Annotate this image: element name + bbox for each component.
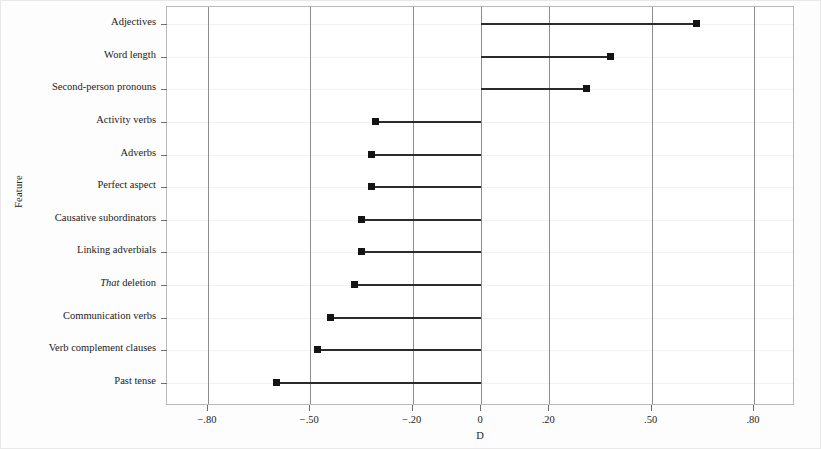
y-axis-tick [161,252,167,253]
vertical-gridline [549,7,550,404]
vertical-gridline [652,7,653,404]
x-axis-tick-label: .80 [746,414,759,425]
chart-row: Adjectives [167,24,793,25]
x-axis-tick [412,405,413,411]
effect-size-line [375,121,481,123]
y-axis-title: Feature [13,152,24,232]
x-axis-tick-label: .20 [542,414,555,425]
data-point-marker[interactable] [693,20,700,27]
chart-row: Second-person pronouns [167,89,793,90]
y-axis-tick [161,383,167,384]
data-point-marker[interactable] [358,216,365,223]
vertical-gridline [754,7,755,404]
data-point-marker[interactable] [327,314,334,321]
y-axis-tick-label: Word length [104,49,156,60]
data-point-marker[interactable] [583,85,590,92]
y-axis-tick [161,89,167,90]
effect-size-line [355,284,481,286]
x-axis-tick [651,405,652,411]
chart-row: Linking adverbials [167,252,793,253]
data-point-marker[interactable] [358,248,365,255]
x-axis-title: D [166,430,794,441]
x-axis-tick [548,405,549,411]
x-axis-tick [753,405,754,411]
data-point-marker[interactable] [368,183,375,190]
y-axis-tick [161,24,167,25]
data-point-marker[interactable] [314,346,321,353]
y-axis-tick-label: Linking adverbials [77,244,156,255]
chart-row: Adverbs [167,155,793,156]
vertical-gridline [413,7,414,404]
x-axis-tick-label: −.50 [300,414,319,425]
y-axis-tick-label: Activity verbs [96,114,156,125]
y-axis-tick-label: Adjectives [111,16,156,27]
x-axis-tick-label: −.80 [197,414,216,425]
y-axis-tick-label: Past tense [114,375,156,386]
chart-row: That deletion [167,285,793,286]
y-axis-tick-label: That deletion [100,277,156,288]
chart-row: Perfect aspect [167,187,793,188]
plot-area: AdjectivesWord lengthSecond-person prono… [166,6,794,405]
data-point-marker[interactable] [607,53,614,60]
chart-row: Causative subordinators [167,220,793,221]
x-axis-tick [309,405,310,411]
y-axis-tick [161,122,167,123]
y-axis-tick [161,155,167,156]
chart-row: Past tense [167,383,793,384]
y-axis-tick-label: Verb complement clauses [49,342,156,353]
vertical-gridline [481,7,482,404]
y-axis-tick [161,285,167,286]
y-axis-tick [161,318,167,319]
y-axis-tick-label: Communication verbs [63,310,156,321]
effect-size-line [372,154,481,156]
effect-size-line [372,186,481,188]
y-axis-tick [161,220,167,221]
data-point-marker[interactable] [273,379,280,386]
x-axis-tick [480,405,481,411]
forest-plot-figure: Feature AdjectivesWord lengthSecond-pers… [0,0,821,449]
data-point-marker[interactable] [368,151,375,158]
effect-size-line [481,23,696,25]
y-axis-tick [161,350,167,351]
effect-size-line [276,382,481,384]
y-axis-tick-label: Perfect aspect [97,179,156,190]
vertical-gridline [310,7,311,404]
effect-size-line [362,219,481,221]
y-axis-tick-label: Adverbs [120,147,156,158]
x-axis-tick-label: −.20 [402,414,421,425]
chart-row: Word length [167,57,793,58]
x-axis-tick-label: 0 [477,414,482,425]
data-point-marker[interactable] [351,281,358,288]
chart-row: Activity verbs [167,122,793,123]
data-point-marker[interactable] [372,118,379,125]
effect-size-line [317,349,481,351]
vertical-gridline [208,7,209,404]
x-axis-tick [207,405,208,411]
y-axis-tick-label: Causative subordinators [55,212,156,223]
effect-size-line [481,88,587,90]
y-axis-tick [161,187,167,188]
chart-row: Verb complement clauses [167,350,793,351]
chart-row: Communication verbs [167,318,793,319]
effect-size-line [362,251,481,253]
effect-size-line [331,317,481,319]
y-axis-tick [161,57,167,58]
y-axis-tick-label: Second-person pronouns [52,81,156,92]
x-axis-tick-label: .50 [644,414,657,425]
effect-size-line [481,56,611,58]
